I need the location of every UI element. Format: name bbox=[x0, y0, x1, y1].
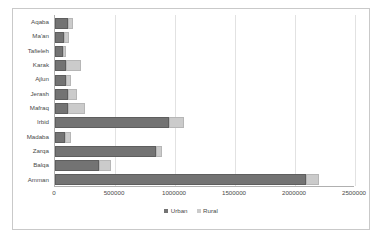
bar-row bbox=[55, 158, 354, 172]
bar-stack-ma-an bbox=[55, 32, 69, 41]
y-axis-category-labels: AmmanBalqaZarqaMadabaIrbidMafraqJerashAj… bbox=[13, 15, 52, 187]
chart-legend: UrbanRural bbox=[13, 207, 369, 214]
legend-label: Urban bbox=[171, 207, 188, 214]
category-label-tafieleh: Tafieleh bbox=[13, 44, 52, 58]
bar-segment-rural bbox=[156, 146, 162, 157]
stacked-bar-series bbox=[55, 15, 354, 186]
bar-stack-tafieleh bbox=[55, 46, 66, 55]
category-label-ajlun: Ajlun bbox=[13, 72, 52, 86]
rural-swatch-icon bbox=[197, 209, 201, 213]
bar-stack-irbid bbox=[55, 117, 184, 126]
category-label-aqaba: Aqaba bbox=[13, 15, 52, 29]
category-label-zarqa: Zarqa bbox=[13, 144, 52, 158]
bar-stack-amman bbox=[55, 174, 319, 183]
category-label-amman: Amman bbox=[13, 173, 52, 187]
bar-segment-rural bbox=[169, 117, 184, 128]
bar-stack-balqa bbox=[55, 160, 111, 169]
bar-stack-ajlun bbox=[55, 75, 71, 84]
chart-figure-frame: AmmanBalqaZarqaMadabaIrbidMafraqJerashAj… bbox=[12, 8, 370, 230]
bar-stack-jerash bbox=[55, 89, 77, 98]
bar-segment-urban bbox=[55, 174, 306, 185]
bar-segment-rural bbox=[306, 174, 319, 185]
x-tick-1000000: 1000000 bbox=[162, 189, 186, 196]
bar-row bbox=[55, 15, 354, 29]
legend-item-urban[interactable]: Urban bbox=[164, 207, 187, 214]
bar-row bbox=[55, 86, 354, 100]
bar-row bbox=[55, 72, 354, 86]
bar-segment-rural bbox=[66, 75, 71, 86]
bar-stack-aqaba bbox=[55, 18, 73, 27]
bar-stack-zarqa bbox=[55, 146, 162, 155]
bar-segment-urban bbox=[55, 75, 66, 86]
bar-stack-mafraq bbox=[55, 103, 85, 112]
bar-stack-madaba bbox=[55, 132, 71, 141]
x-tick-2000000: 2000000 bbox=[282, 189, 306, 196]
bar-segment-urban bbox=[55, 117, 169, 128]
category-label-karak: Karak bbox=[13, 58, 52, 72]
category-label-ma-an: Ma'an bbox=[13, 29, 52, 43]
x-tick-500000: 500000 bbox=[104, 189, 125, 196]
bar-stack-karak bbox=[55, 60, 81, 69]
category-label-irbid: Irbid bbox=[13, 115, 52, 129]
bar-row bbox=[55, 44, 354, 58]
bar-row bbox=[55, 29, 354, 43]
legend-label: Rural bbox=[203, 207, 218, 214]
category-label-madaba: Madaba bbox=[13, 130, 52, 144]
bar-segment-rural bbox=[68, 18, 73, 29]
urban-swatch-icon bbox=[164, 209, 168, 213]
gridline-2500000 bbox=[355, 15, 356, 186]
x-tick-2500000: 2500000 bbox=[342, 189, 366, 196]
bar-segment-urban bbox=[55, 132, 65, 143]
x-tick-1500000: 1500000 bbox=[222, 189, 246, 196]
bar-row bbox=[55, 101, 354, 115]
bar-segment-urban bbox=[55, 60, 66, 71]
x-tick-0: 0 bbox=[52, 189, 55, 196]
category-label-mafraq: Mafraq bbox=[13, 101, 52, 115]
bar-segment-rural bbox=[68, 103, 84, 114]
bar-segment-urban bbox=[55, 46, 63, 57]
bar-row bbox=[55, 172, 354, 186]
bar-row bbox=[55, 143, 354, 157]
bar-segment-rural bbox=[63, 46, 66, 57]
bar-row bbox=[55, 58, 354, 72]
bar-row bbox=[55, 129, 354, 143]
bar-segment-urban bbox=[55, 103, 68, 114]
plot-area bbox=[54, 15, 354, 187]
bar-segment-urban bbox=[55, 89, 68, 100]
bar-segment-rural bbox=[65, 132, 71, 143]
bar-segment-rural bbox=[99, 160, 111, 171]
category-label-jerash: Jerash bbox=[13, 87, 52, 101]
bar-segment-rural bbox=[66, 60, 81, 71]
bar-row bbox=[55, 115, 354, 129]
bar-segment-urban bbox=[55, 146, 156, 157]
bar-segment-rural bbox=[68, 89, 77, 100]
legend-item-rural[interactable]: Rural bbox=[197, 207, 218, 214]
bar-segment-urban bbox=[55, 32, 64, 43]
bar-segment-rural bbox=[64, 32, 70, 43]
bar-segment-urban bbox=[55, 160, 99, 171]
category-label-balqa: Balqa bbox=[13, 158, 52, 172]
x-axis-tick-labels: 05000001000000150000020000002500000 bbox=[54, 189, 354, 201]
bar-segment-urban bbox=[55, 18, 68, 29]
